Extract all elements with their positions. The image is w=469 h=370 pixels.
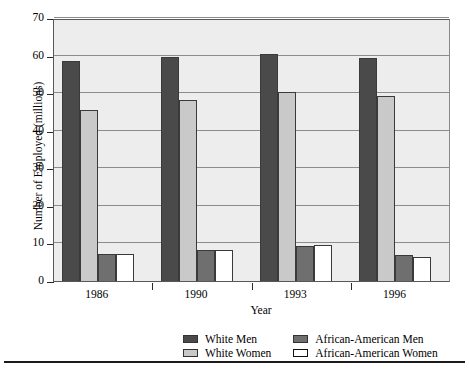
bar-1986-african-american-women xyxy=(116,254,134,281)
legend-label-african-american-men: African-American Men xyxy=(315,333,423,345)
bar-1993-white-women xyxy=(278,92,296,281)
bar-1993-african-american-men xyxy=(296,246,314,281)
bar-1996-african-american-women xyxy=(413,257,431,281)
bar-chart-figure: Number of Employed (millions) 0102030405… xyxy=(0,0,469,370)
bar-1990-african-american-men xyxy=(197,250,215,281)
plot-area xyxy=(53,19,450,282)
legend-swatch-white-women xyxy=(183,349,198,357)
bar-1996-white-women xyxy=(377,96,395,281)
bar-group-1990 xyxy=(153,20,252,281)
x-axis-title: Year xyxy=(0,304,469,316)
bar-group-1993 xyxy=(253,20,352,281)
bar-1990-white-women xyxy=(179,100,197,281)
gridline-70 xyxy=(54,17,449,18)
bar-1986-african-american-men xyxy=(98,254,116,281)
legend-swatch-african-american-women xyxy=(293,349,308,357)
bar-1990-african-american-women xyxy=(215,250,233,281)
bar-group-1986 xyxy=(54,20,153,281)
bar-1986-white-women xyxy=(80,110,98,281)
y-tick-label-10: 10 xyxy=(4,237,44,249)
y-tick-label-70: 70 xyxy=(4,12,44,24)
legend-item-white-women: White Women xyxy=(183,347,271,359)
x-tick-1 xyxy=(152,283,153,290)
y-tick-label-0: 0 xyxy=(4,275,44,287)
bar-1996-african-american-men xyxy=(395,255,413,281)
y-tick-label-20: 20 xyxy=(4,200,44,212)
y-tick-label-60: 60 xyxy=(4,50,44,62)
legend-label-white-women: White Women xyxy=(205,347,271,359)
x-tick-label-1986: 1986 xyxy=(57,288,137,300)
x-tick-label-1996: 1996 xyxy=(354,288,434,300)
y-tick-label-40: 40 xyxy=(4,125,44,137)
x-tick-3 xyxy=(351,283,352,290)
x-tick-label-1993: 1993 xyxy=(255,288,335,300)
legend-label-white-men: White Men xyxy=(205,333,257,345)
y-tick-0 xyxy=(47,282,54,283)
bar-1990-white-men xyxy=(161,57,179,281)
legend-swatch-african-american-men xyxy=(293,335,308,343)
legend-item-white-men: White Men xyxy=(183,333,271,345)
y-tick-label-30: 30 xyxy=(4,162,44,174)
legend-swatch-white-men xyxy=(183,335,198,343)
bar-1993-white-men xyxy=(260,54,278,281)
x-tick-label-1990: 1990 xyxy=(156,288,236,300)
x-tick-2 xyxy=(252,283,253,290)
bar-1996-white-men xyxy=(359,58,377,281)
legend-item-african-american-men: African-American Men xyxy=(293,333,437,345)
legend-item-african-american-women: African-American Women xyxy=(293,347,437,359)
bottom-divider xyxy=(4,361,465,363)
bar-1993-african-american-women xyxy=(314,245,332,281)
legend-label-african-american-women: African-American Women xyxy=(315,347,437,359)
y-tick-label-50: 50 xyxy=(4,87,44,99)
chart-legend: White MenAfrican-American MenWhite Women… xyxy=(183,333,438,359)
bar-group-1996 xyxy=(352,20,451,281)
bar-1986-white-men xyxy=(62,61,80,281)
